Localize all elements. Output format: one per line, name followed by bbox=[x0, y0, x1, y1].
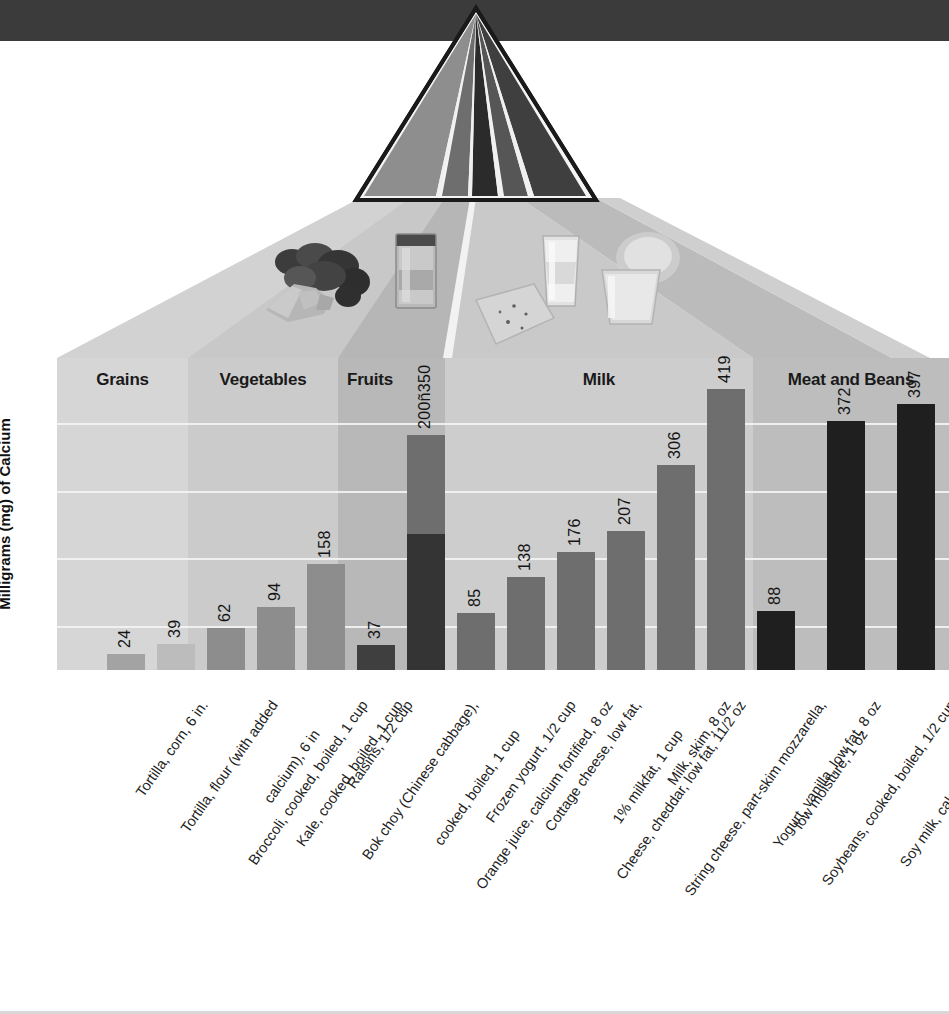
bar-cheddar-cheese: 176 bbox=[557, 552, 595, 670]
bar-value-label: 207 bbox=[616, 497, 634, 525]
y-axis-title: Milligrams (mg) of Calcium bbox=[0, 358, 18, 670]
group-label-vegetables: Vegetables bbox=[188, 370, 338, 390]
bar-value-label: 138 bbox=[516, 543, 534, 571]
bar-yogurt-vanilla: 419 bbox=[707, 389, 745, 670]
group-label-milk: Milk bbox=[445, 370, 753, 390]
bar-value-label: 419 bbox=[716, 355, 734, 383]
group-label-grains: Grains bbox=[57, 370, 188, 390]
bar-value-label: 176 bbox=[566, 518, 584, 546]
bar-frozen-yogurt: 85 bbox=[457, 613, 495, 670]
bar-value-label: 306 bbox=[666, 431, 684, 459]
bar-cottage-cheese: 138 bbox=[507, 577, 545, 670]
bar-value-label: 39 bbox=[166, 620, 184, 638]
bar-soy-milk: 372 bbox=[827, 421, 865, 670]
broccoli-photo bbox=[258, 240, 376, 332]
orange-juice-glass-photo bbox=[392, 230, 440, 312]
bar-string-cheese: 207 bbox=[607, 531, 645, 670]
milk-glass-photo bbox=[538, 232, 584, 310]
bar-value-label: 158 bbox=[316, 530, 334, 558]
bar-value-label: 200ñ350 bbox=[416, 365, 434, 429]
bar-milk-skim: 306 bbox=[657, 465, 695, 670]
bar-value-label: 88 bbox=[766, 587, 784, 605]
bar-raisins: 37 bbox=[357, 645, 395, 670]
bar-tortilla-flour: 39 bbox=[157, 644, 195, 670]
bar-soybeans: 88 bbox=[757, 611, 795, 670]
bar-bok-choy: 158 bbox=[307, 564, 345, 670]
bar-tofu: 397 bbox=[897, 404, 935, 670]
bar-value-label: 372 bbox=[836, 387, 854, 415]
calcium-bar-chart: Grains Vegetables Fruits Milk Meat and B… bbox=[57, 358, 949, 670]
bar-kale: 94 bbox=[257, 607, 295, 670]
bar-tortilla-corn: 24 bbox=[107, 654, 145, 670]
x-axis-labels: Tortilla, corn, 6 in. Tortilla, flour (w… bbox=[0, 670, 949, 1014]
food-guide-pyramid bbox=[352, 4, 600, 202]
bar-value-label: 24 bbox=[116, 630, 134, 648]
bar-value-label: 62 bbox=[216, 604, 234, 622]
bar-value-label: 397 bbox=[906, 370, 924, 398]
yogurt-cup-photo bbox=[586, 228, 684, 330]
bar-value-label: 85 bbox=[466, 589, 484, 607]
bar-orange-juice: 200ñ350 bbox=[407, 435, 445, 670]
bar-broccoli: 62 bbox=[207, 628, 245, 670]
bar-value-label: 37 bbox=[366, 621, 384, 639]
bar-value-label: 94 bbox=[266, 583, 284, 601]
